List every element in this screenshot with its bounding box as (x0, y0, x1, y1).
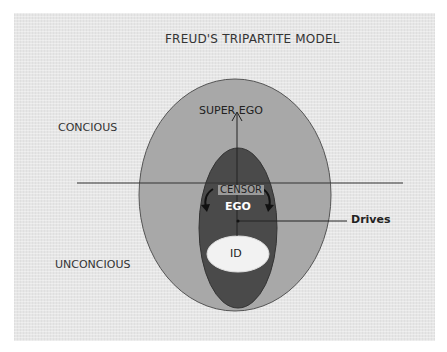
drives-pointer-dot (237, 220, 240, 223)
superego-label: SUPER EGO (199, 105, 263, 116)
ego-ellipse (199, 148, 277, 308)
conscious-label: CONCIOUS (58, 122, 117, 133)
id-label: ID (230, 248, 242, 259)
unconscious-label: UNCONCIOUS (55, 259, 130, 270)
censor-label: CENSOR (218, 185, 264, 195)
tripartite-diagram (0, 0, 447, 352)
ego-label: EGO (225, 201, 251, 212)
drives-label: Drives (351, 214, 391, 225)
diagram-title: FREUD'S TRIPARTITE MODEL (165, 33, 340, 45)
